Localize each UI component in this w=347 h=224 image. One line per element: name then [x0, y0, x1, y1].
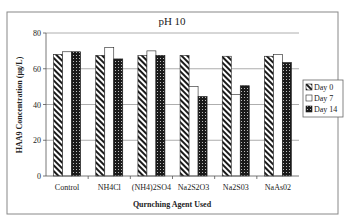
legend-label: Day 0: [314, 83, 333, 92]
bar-day-0: [96, 55, 105, 176]
bar-day-7: [273, 54, 282, 176]
bar-day-7: [231, 95, 240, 176]
bar-chart: pH 10 020406080 ControlNH4Cl(NH4)2SO4Na2…: [0, 0, 347, 224]
y-tick-label: 0: [37, 172, 41, 181]
bar-day-0: [264, 56, 273, 176]
chart-container: pH 10 020406080 ControlNH4Cl(NH4)2SO4Na2…: [0, 0, 347, 224]
x-category-label: NaAs02: [265, 183, 291, 192]
bar-day-14: [282, 62, 291, 176]
bar-day-14: [198, 96, 207, 176]
bar-day-7: [63, 52, 72, 176]
y-tick-label: 40: [33, 101, 41, 110]
legend-swatch-day-14: [306, 106, 312, 112]
x-category-label: (NH4)2SO4: [132, 183, 171, 192]
bar-day-7: [189, 87, 198, 176]
y-axis-title: HAA9 Concentration (µg/L): [15, 56, 24, 153]
bar-day-7: [147, 51, 156, 176]
x-axis-title: Qurnching Agent Used: [133, 200, 212, 209]
x-category-label: Na2S03: [223, 183, 249, 192]
y-tick-label: 20: [33, 136, 41, 145]
bar-day-7: [105, 47, 114, 176]
legend: Day 0Day 7Day 14: [303, 80, 343, 117]
legend-swatch-day-0: [306, 84, 312, 90]
bar-day-0: [222, 56, 231, 176]
legend-label: Day 14: [314, 105, 337, 114]
x-category-label: Control: [55, 183, 80, 192]
chart-title: pH 10: [158, 15, 186, 27]
y-tick-label: 60: [33, 65, 41, 74]
y-tick-label: 80: [33, 29, 41, 38]
x-category-label: NH4Cl: [98, 183, 122, 192]
x-category-label: Na2S2O3: [178, 183, 210, 192]
bar-day-0: [138, 55, 147, 176]
legend-label: Day 7: [314, 94, 333, 103]
legend-swatch-day-7: [306, 95, 312, 101]
bar-day-0: [54, 54, 63, 176]
bar-day-14: [114, 59, 123, 176]
bar-day-0: [180, 55, 189, 176]
bar-day-14: [156, 55, 165, 176]
bar-day-14: [72, 52, 81, 176]
bar-day-14: [240, 86, 249, 176]
